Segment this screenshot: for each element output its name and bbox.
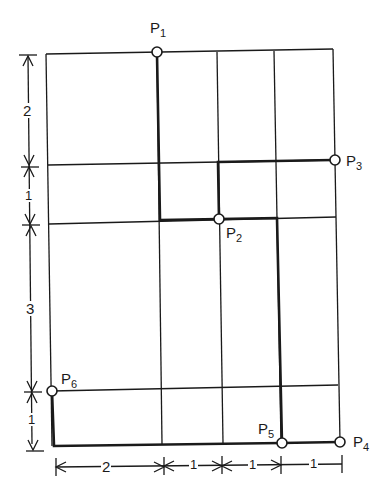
label-subscript: 4: [363, 441, 369, 453]
label-letter: P: [353, 433, 363, 450]
label-letter: P: [150, 19, 160, 36]
hdim-2: 2: [101, 459, 111, 474]
vdim-1-upper: 1: [24, 189, 33, 202]
label-p3: P3: [346, 153, 362, 172]
label-p2: P2: [226, 225, 242, 244]
label-p1: P1: [150, 20, 166, 39]
hdim-1-a: 1: [189, 458, 198, 471]
label-subscript: 5: [268, 428, 274, 440]
label-subscript: 3: [356, 160, 362, 172]
label-subscript: 2: [236, 232, 242, 244]
label-subscript: 1: [160, 27, 166, 39]
vdim-3: 3: [25, 301, 35, 316]
label-subscript: 6: [71, 378, 77, 390]
label-p5: P5: [258, 421, 274, 440]
node-p3: [330, 155, 340, 165]
node-p4: [335, 437, 345, 447]
vdim-2: 2: [22, 103, 32, 118]
label-p4: P4: [353, 434, 369, 453]
label-letter: P: [226, 224, 236, 241]
vdim-1-lower: 1: [27, 413, 36, 426]
node-p2: [214, 214, 224, 224]
grid-diagram: [0, 0, 392, 488]
label-letter: P: [346, 152, 356, 169]
route-path: [52, 54, 340, 446]
hdim-1-b: 1: [248, 458, 257, 471]
grid-lines: [46, 49, 340, 446]
node-p6: [47, 386, 57, 396]
label-p6: P6: [61, 371, 77, 390]
horizontal-dimension: [56, 455, 342, 476]
node-p1: [152, 47, 162, 57]
label-letter: P: [258, 420, 268, 437]
label-letter: P: [61, 370, 71, 387]
hdim-1-c: 1: [309, 457, 318, 470]
node-p5: [277, 438, 287, 448]
